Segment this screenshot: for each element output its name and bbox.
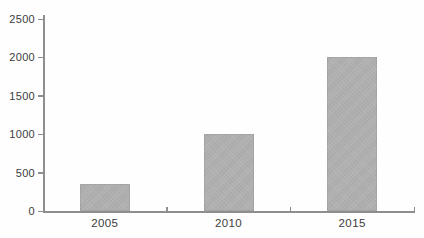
y-axis-tick [38, 57, 43, 59]
bar-2005 [80, 184, 130, 211]
x-category-label: 2010 [204, 216, 254, 230]
y-tick-label: 2500 [0, 12, 35, 26]
y-axis-tick [38, 211, 43, 213]
x-axis-boundary-tick [166, 207, 168, 211]
bar-chart: 05001000150020002500200520102015 [0, 0, 424, 238]
y-tick-label: 500 [0, 166, 35, 180]
y-axis [43, 15, 45, 211]
x-axis [43, 211, 415, 213]
x-axis-boundary-tick [290, 207, 292, 211]
y-tick-label: 0 [0, 204, 35, 218]
x-axis-boundary-tick [414, 207, 416, 211]
y-axis-tick [38, 172, 43, 174]
y-axis-tick [38, 95, 43, 97]
figure: 05001000150020002500200520102015 [0, 0, 424, 238]
bar-2010 [204, 134, 254, 211]
x-category-label: 2005 [80, 216, 130, 230]
y-axis-tick [38, 134, 43, 136]
bar-2015 [327, 57, 377, 211]
y-tick-label: 2000 [0, 50, 35, 64]
x-category-label: 2015 [327, 216, 377, 230]
y-tick-label: 1000 [0, 127, 35, 141]
y-axis-tick [38, 19, 43, 21]
y-tick-label: 1500 [0, 89, 35, 103]
